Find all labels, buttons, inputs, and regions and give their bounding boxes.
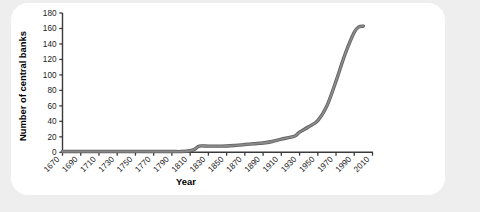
x-axis-tick-label: 1930 (279, 155, 299, 175)
y-axis-title: Number of central banks (17, 31, 28, 141)
central-banks-line-chart: 020406080100120140160180 167016901710173… (0, 0, 480, 212)
x-axis-tick-label: 1750 (115, 155, 135, 175)
x-axis-tick-label: 1690 (60, 155, 80, 175)
x-axis-tick-label: 1710 (79, 155, 99, 175)
x-axis-tick-label: 1730 (97, 155, 117, 175)
x-axis-tick-label: 2010 (352, 155, 372, 175)
x-axis-tick-label: 1810 (170, 155, 190, 175)
y-axis-tick-label: 60 (47, 102, 57, 111)
y-axis-tick-labels: 020406080100120140160180 (43, 9, 57, 157)
x-axis-tick-label: 1910 (261, 155, 281, 175)
y-axis-tick-label: 20 (47, 133, 57, 142)
x-axis-tick-label: 1790 (152, 155, 172, 175)
x-axis-tick-label: 1970 (316, 155, 336, 175)
x-axis-tick-label: 1870 (225, 155, 245, 175)
y-axis-tick-label: 40 (47, 117, 57, 126)
x-axis-tick-label: 1850 (206, 155, 226, 175)
x-axis-tick-label: 1990 (334, 155, 354, 175)
x-axis-tick-label: 1770 (133, 155, 153, 175)
x-axis-tick-labels: 1670169017101730175017701790181018301850… (42, 155, 372, 175)
y-axis-tick-label: 180 (43, 9, 57, 18)
x-axis-tick-label: 1830 (188, 155, 208, 175)
y-axis-tick-label: 160 (43, 24, 57, 33)
y-axis-tick-label: 140 (43, 40, 57, 49)
x-axis-tick-label: 1890 (243, 155, 263, 175)
screenshot-root: 020406080100120140160180 167016901710173… (0, 0, 480, 212)
x-axis-tick-label: 1950 (297, 155, 317, 175)
x-axis-title: Year (176, 176, 196, 187)
x-axis-tick-label: 1670 (42, 155, 62, 175)
y-axis-tick-label: 80 (47, 86, 57, 95)
y-axis-tick-label: 120 (43, 55, 57, 64)
plot-area-background (62, 13, 372, 152)
y-axis-tick-label: 100 (43, 71, 57, 80)
